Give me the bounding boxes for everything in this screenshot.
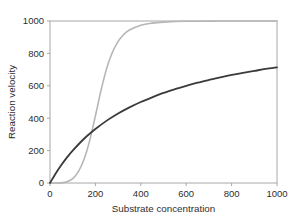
y-tick-label: 1000 <box>23 15 44 26</box>
x-tick-label: 600 <box>178 188 194 199</box>
y-tick-label: 800 <box>28 48 44 59</box>
y-tick-label: 400 <box>28 113 44 124</box>
x-tick-label: 400 <box>133 188 149 199</box>
y-axis-label: Reaction velocity <box>6 65 17 139</box>
x-axis-label: Substrate concentration <box>112 203 215 214</box>
x-tick-label: 1000 <box>266 188 287 199</box>
chart-figure: 02004006008001000 02004006008001000 Subs… <box>0 0 301 223</box>
y-tick-label: 200 <box>28 145 44 156</box>
y-tick-label: 600 <box>28 80 44 91</box>
chart-background <box>0 0 301 223</box>
x-tick-label: 200 <box>87 188 103 199</box>
x-tick-label: 800 <box>224 188 240 199</box>
y-tick-label: 0 <box>39 177 44 188</box>
chart-svg: 02004006008001000 02004006008001000 Subs… <box>0 0 301 223</box>
x-tick-label: 0 <box>47 188 52 199</box>
